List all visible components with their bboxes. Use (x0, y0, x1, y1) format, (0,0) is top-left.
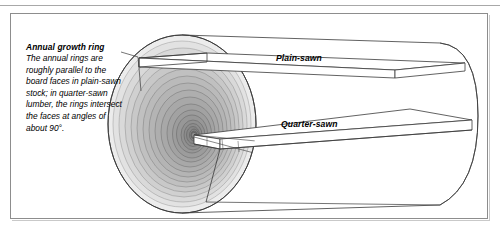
callout-title: Annual growth ring (26, 42, 128, 52)
illustration-page: Annual growth ring The annual rings are … (0, 0, 500, 236)
quarter-sawn-label: Quarter-sawn (281, 119, 338, 129)
callout-body-text: The annual rings are roughly parallel to… (26, 53, 128, 134)
plain-sawn-label: Plain-sawn (276, 53, 322, 63)
top-divider-rule (0, 5, 500, 6)
annual-growth-ring-callout: Annual growth ring The annual rings are … (26, 42, 128, 134)
